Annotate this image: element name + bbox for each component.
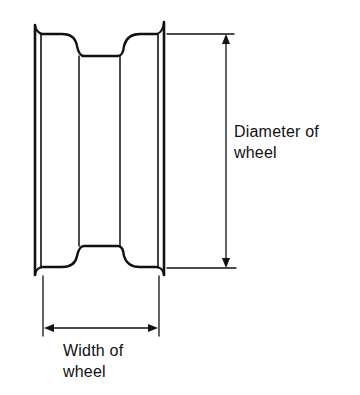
arrowhead-up-icon <box>222 34 230 44</box>
right-flange <box>157 22 164 275</box>
arrowhead-left-icon <box>44 324 54 332</box>
diameter-dimension <box>167 34 236 268</box>
wheel-rim-diagram <box>0 0 360 395</box>
arrowhead-right-icon <box>148 324 158 332</box>
rim-bottom-profile <box>42 246 157 267</box>
diameter-label-line1: Diameter of <box>234 121 319 142</box>
diameter-label: Diameter of wheel <box>234 121 319 163</box>
width-label: Width of wheel <box>63 340 123 382</box>
arrowhead-down-icon <box>222 258 230 268</box>
width-dimension <box>43 276 159 336</box>
rim-top-profile <box>42 34 157 56</box>
diameter-label-line2: wheel <box>234 142 319 163</box>
width-label-line2: wheel <box>63 361 123 382</box>
left-flange <box>35 25 42 275</box>
width-label-line1: Width of <box>63 340 123 361</box>
